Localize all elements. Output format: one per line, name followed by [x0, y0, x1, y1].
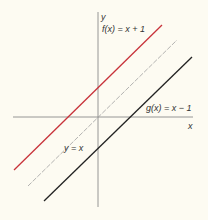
- y-axis-label: y: [101, 13, 106, 22]
- identity-label: y = x: [64, 144, 83, 153]
- g-label: g(x) = x − 1: [146, 104, 192, 113]
- g-line: [44, 57, 192, 201]
- x-axis-label: x: [188, 122, 193, 131]
- f-line: [14, 25, 162, 170]
- f-label: f(x) = x + 1: [102, 25, 145, 34]
- identity-line: [28, 40, 177, 186]
